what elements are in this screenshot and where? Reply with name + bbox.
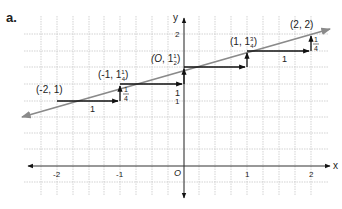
svg-text:1: 1 bbox=[90, 104, 95, 114]
slope-figure: a. x y O -2 -1 1 2 1 2 (-2, 1) (-1, 114)… bbox=[0, 0, 342, 209]
svg-text:4: 4 bbox=[124, 95, 128, 102]
x-tick-neg2: -2 bbox=[53, 170, 61, 179]
point-label-0: (O, 112) bbox=[151, 53, 180, 66]
point-label-neg2-1: (-2, 1) bbox=[36, 84, 63, 95]
x-tick-2: 2 bbox=[309, 170, 314, 179]
svg-text:1: 1 bbox=[282, 54, 287, 64]
part-label: a. bbox=[6, 10, 17, 25]
y-tick-1: 1 bbox=[175, 97, 180, 106]
svg-text:1: 1 bbox=[175, 88, 180, 98]
point-label-neg1: (-1, 114) bbox=[98, 69, 128, 82]
origin-label: O bbox=[174, 168, 181, 178]
x-tick-neg1: -1 bbox=[116, 170, 124, 179]
svg-text:4: 4 bbox=[314, 45, 318, 52]
point-label-2-2: (2, 2) bbox=[290, 19, 313, 30]
y-tick-2: 2 bbox=[175, 30, 180, 39]
x-axis-label: x bbox=[333, 160, 338, 171]
y-axis-label: y bbox=[173, 12, 178, 23]
point-label-1: (1, 134) bbox=[230, 36, 257, 49]
svg-text:1: 1 bbox=[124, 86, 128, 93]
x-tick-1: 1 bbox=[245, 170, 250, 179]
svg-text:1: 1 bbox=[314, 36, 318, 43]
